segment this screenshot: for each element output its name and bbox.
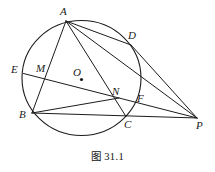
geometry-canvas — [0, 0, 215, 172]
center-point-dot — [80, 78, 83, 81]
point-label-e: E — [11, 64, 18, 75]
segment-A-D — [66, 21, 131, 45]
point-label-p: P — [196, 120, 203, 131]
point-label-m: M — [36, 63, 45, 74]
point-label-c: C — [124, 119, 131, 130]
segment-B-N — [32, 98, 119, 113]
point-label-d: D — [128, 30, 136, 41]
point-label-o: O — [73, 67, 81, 78]
point-label-a: A — [60, 6, 67, 17]
geometry-figure: ADEMONFBCP 图 31.1 — [0, 0, 215, 172]
segment-group — [24, 21, 198, 118]
point-label-f: F — [137, 93, 144, 104]
segment-B-P — [32, 113, 197, 118]
figure-caption: 图 31.1 — [0, 148, 215, 163]
segment-E-P — [24, 74, 198, 119]
point-label-b: B — [19, 109, 26, 120]
point-label-n: N — [112, 86, 119, 97]
